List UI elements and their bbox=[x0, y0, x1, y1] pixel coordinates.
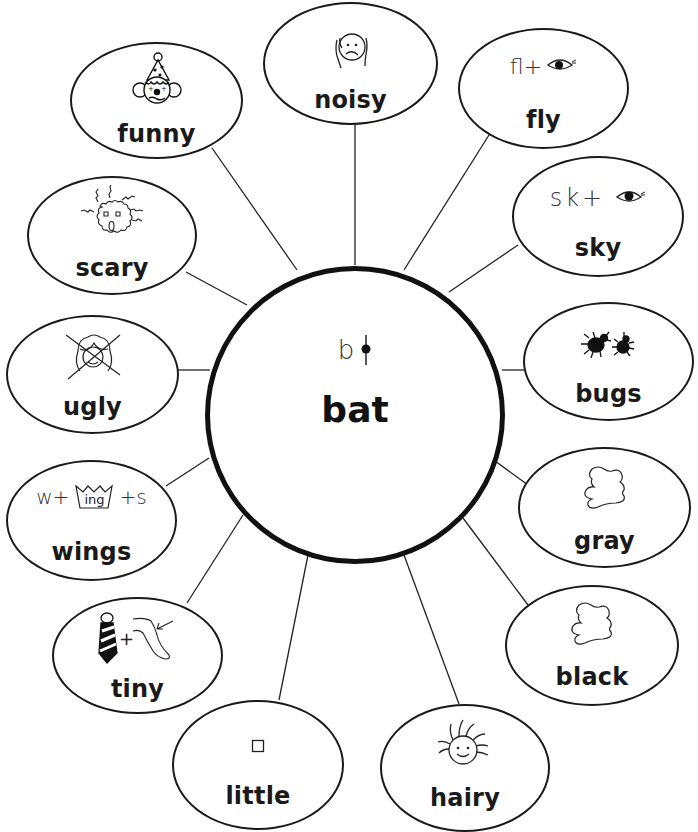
node-wings: w+ ing +s wings bbox=[6, 460, 177, 581]
node-little: little bbox=[172, 700, 344, 830]
connector-tiny bbox=[187, 515, 243, 603]
center-word: bat bbox=[210, 389, 500, 430]
eye-icon bbox=[616, 189, 646, 205]
symbol-text: fl+ bbox=[510, 54, 542, 79]
center-circle-bat: b bat bbox=[205, 266, 505, 564]
node-label: noisy bbox=[265, 86, 436, 114]
center-symbol: b bbox=[210, 335, 500, 365]
connector-funny bbox=[212, 148, 297, 270]
crown-text: ing bbox=[74, 492, 114, 507]
node-label: scary bbox=[29, 254, 195, 282]
node-tiny: + tiny bbox=[52, 597, 223, 714]
node-label: fly bbox=[460, 106, 627, 134]
connector-little bbox=[279, 555, 308, 700]
connector-sky bbox=[449, 245, 518, 292]
connector-hairy bbox=[404, 555, 459, 704]
node-label: gray bbox=[520, 527, 689, 555]
blob-icon bbox=[559, 597, 625, 649]
covered-ears-face-icon bbox=[329, 30, 373, 72]
tack-icon bbox=[360, 335, 372, 365]
scary-face-icon bbox=[70, 184, 154, 246]
svg-text:+: + bbox=[119, 628, 134, 649]
node-label: bugs bbox=[525, 380, 692, 408]
svg-text:+: + bbox=[148, 85, 154, 93]
node-label: funny bbox=[72, 120, 241, 148]
node-fly: fl+ fly bbox=[458, 28, 629, 149]
node-sky: sk+ sky bbox=[512, 156, 684, 277]
node-label: little bbox=[174, 782, 342, 810]
small-square-icon bbox=[251, 739, 265, 753]
bugs-icon bbox=[580, 330, 638, 360]
eye-icon bbox=[547, 57, 577, 73]
node-label: black bbox=[507, 663, 677, 691]
svg-text:+: + bbox=[161, 85, 167, 93]
symbol-letter-b: b bbox=[338, 335, 355, 365]
symbol-suffix: +s bbox=[120, 485, 147, 509]
node-label: tiny bbox=[54, 675, 221, 703]
symbol-prefix: w+ bbox=[36, 485, 69, 509]
connector-fly bbox=[404, 135, 489, 270]
node-label: ugly bbox=[8, 393, 177, 421]
node-label: wings bbox=[8, 538, 175, 566]
hairy-face-icon bbox=[435, 716, 495, 768]
node-label: sky bbox=[514, 234, 682, 262]
node-funny: + + funny bbox=[70, 42, 243, 159]
node-label: hairy bbox=[382, 784, 548, 812]
node-noisy: noisy bbox=[263, 2, 438, 125]
symbol-text: sk+ bbox=[550, 184, 606, 212]
node-black: black bbox=[505, 585, 679, 706]
node-hairy: hairy bbox=[380, 704, 550, 832]
connector-wings bbox=[166, 458, 209, 486]
crown-icon: ing bbox=[74, 484, 114, 510]
clown-icon: + + bbox=[129, 52, 185, 108]
tie-plus-knee-icon: + bbox=[93, 609, 183, 665]
blob-icon bbox=[572, 461, 638, 513]
connector-scary bbox=[186, 272, 247, 305]
node-ugly: ugly bbox=[6, 315, 179, 434]
node-gray: gray bbox=[518, 447, 691, 568]
node-scary: scary bbox=[27, 176, 197, 295]
node-bugs: bugs bbox=[523, 302, 694, 421]
connector-black bbox=[463, 518, 528, 605]
crossed-out-pretty-face-icon bbox=[58, 329, 128, 381]
